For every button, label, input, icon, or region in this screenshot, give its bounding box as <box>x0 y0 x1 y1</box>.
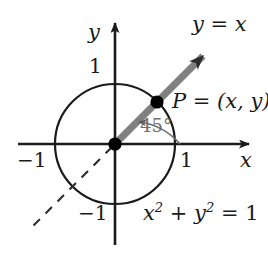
circle-eq-plus: + <box>163 201 194 225</box>
y-tick-label-positive-one: 1 <box>89 56 102 76</box>
circle-eq-x: x <box>143 201 155 225</box>
x-axis-label: x <box>240 150 252 171</box>
line-equation-label: y = x <box>192 14 247 35</box>
unit-circle-figure: y x 1 −1 −1 1 y = x P = (x, y) 45° x2 + … <box>0 0 268 259</box>
point-p-marker <box>150 95 163 108</box>
circle-eq-tail: = 1 <box>214 201 258 225</box>
circle-eq-y-exponent: 2 <box>206 200 214 215</box>
x-tick-label-negative-one: −1 <box>17 150 46 170</box>
circle-equation-label: x2 + y2 = 1 <box>143 201 259 224</box>
point-p-label: P = (x, y) <box>172 91 268 112</box>
angle-label-45-degrees: 45° <box>140 117 172 135</box>
circle-eq-y: y <box>194 201 206 225</box>
y-axis-label: y <box>88 22 100 43</box>
circle-eq-x-exponent: 2 <box>155 200 163 215</box>
origin-point <box>108 137 121 150</box>
y-tick-label-negative-one: −1 <box>78 203 107 223</box>
x-tick-label-positive-one: 1 <box>180 150 193 170</box>
